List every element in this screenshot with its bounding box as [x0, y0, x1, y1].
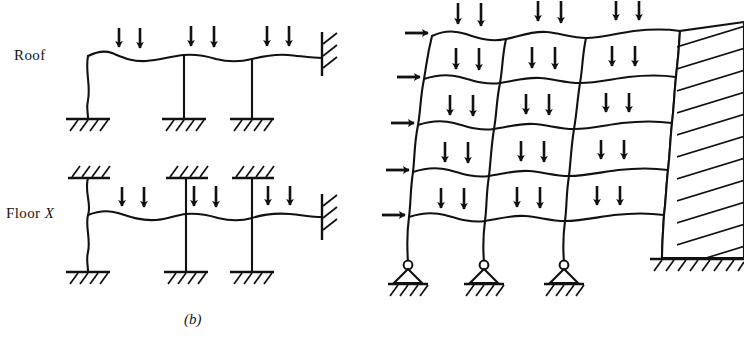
floor-x-subframe [66, 166, 337, 284]
floor-fixed-ceiling-support-1 [68, 166, 110, 178]
gravity-arrows-story-5 [456, 46, 635, 70]
shear-wall [650, 22, 744, 272]
panel-c-drawing [380, 0, 744, 342]
pin-support-1 [388, 261, 428, 296]
floor-fixed-ceiling-support-2 [166, 166, 208, 178]
caption-b: (b) [184, 311, 202, 328]
caption-b-text: (b) [184, 311, 202, 327]
frame-column-line-3 [563, 38, 586, 262]
panel-b-subassemblages: Roof Floor X [0, 0, 380, 342]
roof-column-1 [87, 56, 89, 118]
gravity-arrows-story-3 [445, 140, 624, 163]
gravity-arrows-story-2 [441, 186, 620, 209]
floor-fixed-wall-support [322, 194, 337, 240]
roof-fixed-support-3 [230, 119, 274, 131]
floor-fixed-ceiling-support-3 [232, 166, 274, 178]
roof-gravity-arrows [119, 26, 289, 48]
panel-b-drawing [0, 0, 380, 342]
roof-fixed-wall-support [322, 32, 337, 76]
floor-fixed-support-2 [164, 272, 208, 284]
roof-fixed-support-2 [162, 119, 206, 131]
frame-beam-level-3 [418, 121, 672, 129]
roof-subframe [66, 26, 337, 131]
frame-beam-level-1 [409, 213, 664, 221]
panel-c-frame-shear-wall: (c) [380, 0, 744, 342]
figure-root: Roof Floor X [0, 0, 744, 342]
roof-label: Roof [14, 47, 46, 64]
floor-gravity-arrows [122, 186, 290, 207]
floor-level-letter: X [45, 205, 55, 221]
floor-column-1 [87, 178, 89, 272]
frame-beam-level-2 [413, 168, 668, 176]
roof-fixed-support-1 [66, 119, 110, 131]
frame-beam-roof [432, 30, 680, 41]
roof-beam-deformed [88, 52, 322, 62]
gravity-arrows-story-4 [450, 93, 629, 116]
floor-fixed-support-1 [66, 272, 110, 284]
floor-x-label: Floor X [6, 205, 54, 222]
pin-support-3 [544, 261, 584, 296]
floor-beam-deformed [88, 211, 322, 220]
shear-wall-fixed-base [650, 259, 744, 271]
frame-column-line-1 [407, 36, 432, 262]
pin-support-2 [464, 261, 504, 296]
gravity-arrows-roof-top [458, 1, 639, 26]
floor-fixed-support-3 [230, 272, 274, 284]
frame-beam-level-4 [424, 75, 676, 83]
frame-column-line-2 [483, 39, 506, 262]
floor-label-text: Floor [6, 205, 45, 221]
